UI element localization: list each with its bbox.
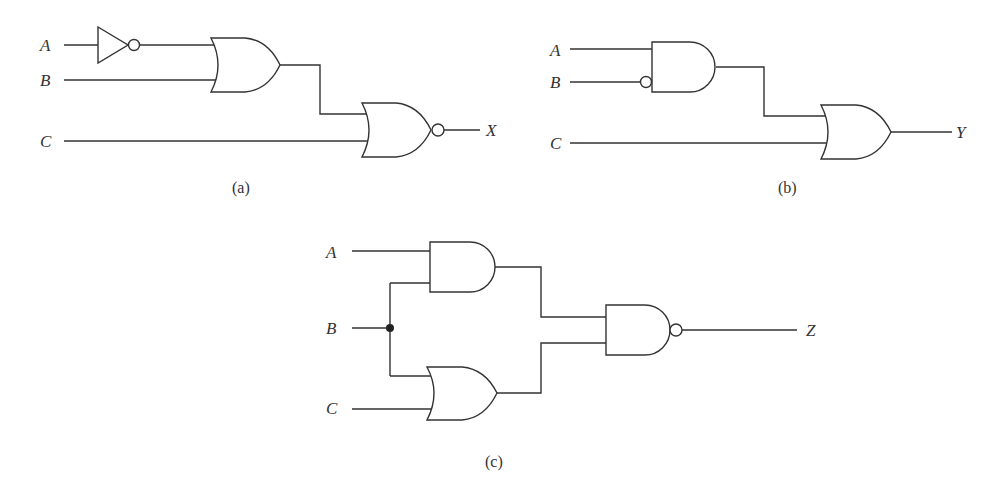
not-gate-icon	[98, 27, 128, 63]
wire-or-out	[497, 343, 606, 393]
not-bubble-icon	[129, 40, 140, 51]
caption-b: (b)	[778, 179, 797, 197]
nand-bubble-icon	[670, 324, 682, 336]
or-gate-icon	[211, 38, 280, 92]
nand-gate-icon	[606, 305, 670, 355]
output-label-x: X	[485, 121, 497, 140]
and-gate-icon	[430, 242, 495, 292]
output-label-z: Z	[806, 321, 816, 340]
input-label-a: A	[549, 41, 561, 60]
panel-a: A B C X (a)	[39, 27, 497, 197]
wire-b-branch	[390, 283, 432, 376]
output-label-y: Y	[956, 123, 967, 142]
inverted-input-bubble-icon	[641, 77, 652, 88]
or-gate-icon	[427, 367, 497, 420]
logic-diagram: A B C X (a) A B C Y	[0, 0, 1003, 491]
input-label-b: B	[326, 319, 337, 338]
junction-dot-icon	[386, 324, 394, 332]
input-label-c: C	[40, 132, 52, 151]
panel-b: A B C Y (b)	[549, 41, 967, 197]
and-gate-icon	[652, 42, 715, 92]
input-label-a: A	[325, 243, 337, 262]
input-label-a: A	[39, 36, 51, 55]
caption-a: (a)	[232, 179, 250, 197]
wire-and-out	[495, 267, 606, 317]
input-label-c: C	[326, 399, 338, 418]
wire-and-out	[716, 67, 826, 116]
input-label-c: C	[550, 134, 562, 153]
or-gate-icon	[821, 105, 891, 159]
caption-c: (c)	[485, 453, 503, 471]
nor-bubble-icon	[432, 124, 444, 136]
input-label-b: B	[550, 73, 561, 92]
wire-or-out	[280, 65, 368, 114]
panel-c: A B C Z (c)	[325, 242, 816, 471]
nor-gate-icon	[362, 103, 431, 157]
input-label-b: B	[40, 71, 51, 90]
